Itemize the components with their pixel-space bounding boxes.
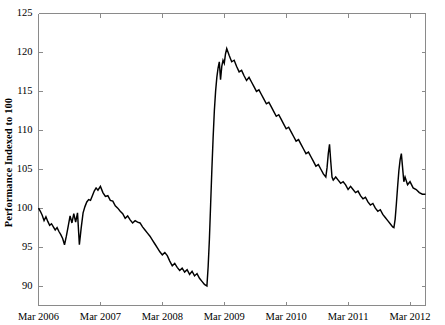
x-tick-label: Mar 2008 xyxy=(142,311,183,322)
x-tick-label: Mar 2009 xyxy=(204,311,245,322)
y-tick-label: 110 xyxy=(17,124,32,135)
x-tick-label: Mar 2007 xyxy=(80,311,121,322)
x-tick-label: Mar 2012 xyxy=(389,311,430,322)
chart-figure: Performance Indexed to 100 9095100105110… xyxy=(0,0,445,325)
data-series-group xyxy=(39,49,426,286)
y-axis-tick-labels: 9095100105110115120125 xyxy=(17,7,33,291)
y-tick-label: 105 xyxy=(17,163,33,174)
x-tick-label: Mar 2006 xyxy=(18,311,59,322)
y-tick-label: 115 xyxy=(17,85,32,96)
x-axis-ticks xyxy=(39,14,411,306)
y-tick-label: 125 xyxy=(17,7,33,18)
axis-frame xyxy=(39,14,426,306)
chart-svg: 9095100105110115120125 Mar 2006Mar 2007M… xyxy=(0,0,445,325)
y-tick-label: 90 xyxy=(22,280,33,291)
y-tick-label: 120 xyxy=(17,46,33,57)
x-tick-label: Mar 2011 xyxy=(328,311,369,322)
axis-box xyxy=(39,14,426,306)
y-tick-label: 100 xyxy=(17,202,33,213)
x-tick-label: Mar 2010 xyxy=(266,311,307,322)
x-axis-tick-labels: Mar 2006Mar 2007Mar 2008Mar 2009Mar 2010… xyxy=(18,311,431,322)
series-line-performance-index xyxy=(39,49,426,286)
plot-area-wrapper: 9095100105110115120125 Mar 2006Mar 2007M… xyxy=(0,0,445,325)
y-axis-ticks xyxy=(39,14,426,287)
y-tick-label: 95 xyxy=(22,241,33,252)
